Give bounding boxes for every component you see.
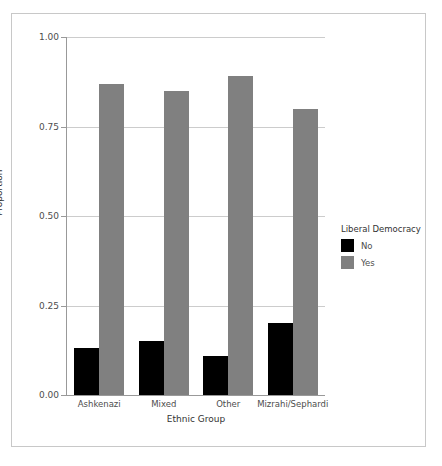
y-tick-mark-0.25: [61, 306, 66, 307]
legend-swatch-yes: [341, 256, 354, 269]
x-tick-label-mixed: Mixed: [151, 399, 176, 409]
y-tick-label-1.00: 1.00: [19, 32, 59, 42]
y-tick-label-0.25: 0.25: [19, 301, 59, 311]
y-axis-title: Proportion: [0, 170, 4, 216]
y-tick-mark-0.50: [61, 216, 66, 217]
x-axis-line: [66, 395, 325, 396]
bar-mizrahi-sephardi-no[interactable]: [268, 323, 293, 395]
plot-area: [67, 37, 325, 395]
bar-mixed-yes[interactable]: [164, 91, 189, 395]
bar-ashkenazi-yes[interactable]: [99, 84, 124, 395]
x-axis-title: Ethnic Group: [67, 414, 325, 424]
bar-ashkenazi-no[interactable]: [74, 348, 99, 395]
gridline-y-1.00: [67, 37, 325, 38]
y-axis-line: [66, 37, 67, 396]
chart-figure: 1.000.750.500.250.00 Proportion Ashkenaz…: [0, 0, 442, 466]
bar-mizrahi-sephardi-yes[interactable]: [293, 109, 318, 395]
y-tick-mark-0.00: [61, 395, 66, 396]
y-tick-mark-0.75: [61, 127, 66, 128]
legend-item-no[interactable]: No: [341, 239, 421, 252]
x-tick-label-mizrahi-sephardi: Mizrahi/Sephardi: [257, 399, 328, 409]
bar-other-yes[interactable]: [228, 76, 253, 395]
legend-entries: NoYes: [341, 239, 421, 269]
x-tick-label-other: Other: [216, 399, 240, 409]
y-axis-tick-labels: 1.000.750.500.250.00: [15, 0, 59, 466]
legend: Liberal Democracy NoYes: [341, 224, 421, 273]
bar-other-no[interactable]: [203, 356, 228, 395]
legend-swatch-no: [341, 239, 354, 252]
y-tick-label-0.00: 0.00: [19, 390, 59, 400]
legend-label-yes: Yes: [361, 258, 375, 268]
y-tick-mark-1.00: [61, 37, 66, 38]
legend-item-yes[interactable]: Yes: [341, 256, 421, 269]
y-tick-label-0.50: 0.50: [19, 211, 59, 221]
legend-label-no: No: [361, 241, 373, 251]
y-tick-label-0.75: 0.75: [19, 122, 59, 132]
bar-mixed-no[interactable]: [139, 341, 164, 395]
x-tick-label-ashkenazi: Ashkenazi: [78, 399, 121, 409]
legend-title: Liberal Democracy: [341, 224, 421, 234]
